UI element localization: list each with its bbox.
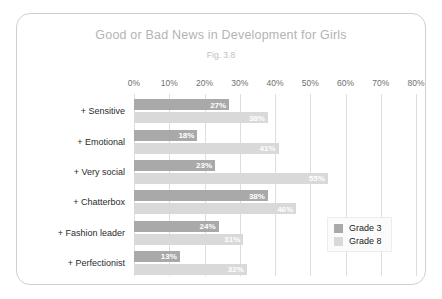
x-tick-label: 30% xyxy=(231,78,248,88)
gridline xyxy=(310,94,311,276)
category-label: + Sensitive xyxy=(81,106,125,116)
bar: 23% xyxy=(134,160,215,171)
bar: 31% xyxy=(134,234,243,245)
bar: 55% xyxy=(134,173,328,184)
chart-legend: Grade 3Grade 8 xyxy=(327,217,392,252)
legend-label: Grade 3 xyxy=(349,223,382,233)
x-tick-label: 40% xyxy=(266,78,283,88)
category-label: + Perfectionist xyxy=(68,258,125,268)
bar: 13% xyxy=(134,251,180,262)
bar-value-label: 55% xyxy=(309,174,325,183)
bar: 38% xyxy=(134,190,268,201)
bar-value-label: 41% xyxy=(260,144,276,153)
bar-value-label: 38% xyxy=(249,191,265,200)
bar-value-label: 31% xyxy=(224,235,240,244)
legend-item: Grade 8 xyxy=(334,236,382,246)
bar: 41% xyxy=(134,143,279,154)
bar-value-label: 13% xyxy=(161,252,177,261)
bar-value-label: 27% xyxy=(210,100,226,109)
legend-swatch-icon xyxy=(334,237,343,246)
x-tick-label: 80% xyxy=(407,78,424,88)
x-tick-label: 10% xyxy=(161,78,178,88)
x-tick-label: 70% xyxy=(372,78,389,88)
gridline xyxy=(275,94,276,276)
legend-swatch-icon xyxy=(334,224,343,233)
bar-value-label: 23% xyxy=(196,161,212,170)
bar-value-label: 24% xyxy=(200,222,216,231)
x-tick-label: 50% xyxy=(302,78,319,88)
category-label: + Emotional xyxy=(77,137,125,147)
x-tick-label: 0% xyxy=(128,78,140,88)
chart-subtitle: Fig. 3.8 xyxy=(17,50,425,60)
bar-value-label: 38% xyxy=(249,113,265,122)
bar: 46% xyxy=(134,203,296,214)
bar: 24% xyxy=(134,221,219,232)
bar-value-label: 32% xyxy=(228,265,244,274)
category-label: + Very social xyxy=(74,167,125,177)
category-label: + Fashion leader xyxy=(58,228,125,238)
legend-item: Grade 3 xyxy=(334,223,382,233)
gridline xyxy=(416,94,417,276)
bar: 38% xyxy=(134,112,268,123)
chart-card: Good or Bad News in Development for Girl… xyxy=(16,13,426,285)
bar: 27% xyxy=(134,99,229,110)
bar-value-label: 18% xyxy=(178,131,194,140)
x-tick-label: 60% xyxy=(337,78,354,88)
bar-value-label: 46% xyxy=(277,204,293,213)
bar: 32% xyxy=(134,264,247,275)
legend-label: Grade 8 xyxy=(349,236,382,246)
category-label: + Chatterbox xyxy=(73,197,125,207)
bar: 18% xyxy=(134,130,197,141)
chart-title: Good or Bad News in Development for Girl… xyxy=(17,28,425,42)
x-tick-label: 20% xyxy=(196,78,213,88)
